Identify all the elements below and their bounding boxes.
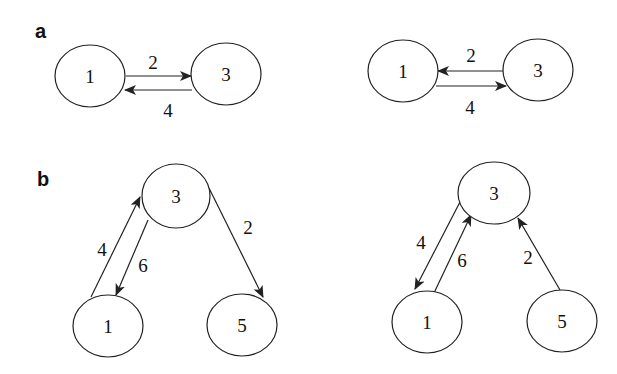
node-label: 5 [237, 315, 247, 336]
panel-b-right: 3 1 5 4 6 2 [392, 162, 597, 353]
node-label: 1 [398, 61, 408, 82]
node-label: 1 [422, 312, 432, 333]
panel-label-a: a [35, 20, 47, 42]
edge-b-left-3-to-5 [209, 188, 263, 297]
node-label: 3 [533, 60, 543, 81]
panel-a-right: 1 3 2 4 [368, 39, 573, 118]
edge-label: 4 [97, 239, 107, 260]
node-label: 1 [85, 66, 95, 87]
panel-b-left: 3 1 5 4 6 2 [73, 164, 277, 357]
edge-label: 2 [523, 247, 533, 268]
edge-label: 2 [148, 52, 158, 73]
edge-label: 4 [416, 232, 426, 253]
edge-label: 6 [138, 255, 148, 276]
edge-label: 4 [465, 97, 475, 118]
panel-label-b: b [37, 168, 49, 190]
edge-label: 4 [163, 100, 173, 121]
edge-label: 6 [457, 250, 467, 271]
network-flow-diagram: a 1 3 2 4 1 3 2 4 b 3 1 5 4 6 2 [0, 0, 617, 374]
panel-a-left: 1 3 2 4 [55, 43, 261, 121]
edge-label: 2 [243, 217, 253, 238]
node-label: 3 [171, 186, 181, 207]
node-label: 5 [557, 311, 567, 332]
node-label: 3 [221, 64, 231, 85]
node-label: 3 [489, 183, 499, 204]
node-label: 1 [103, 316, 113, 337]
edge-label: 2 [466, 45, 476, 66]
